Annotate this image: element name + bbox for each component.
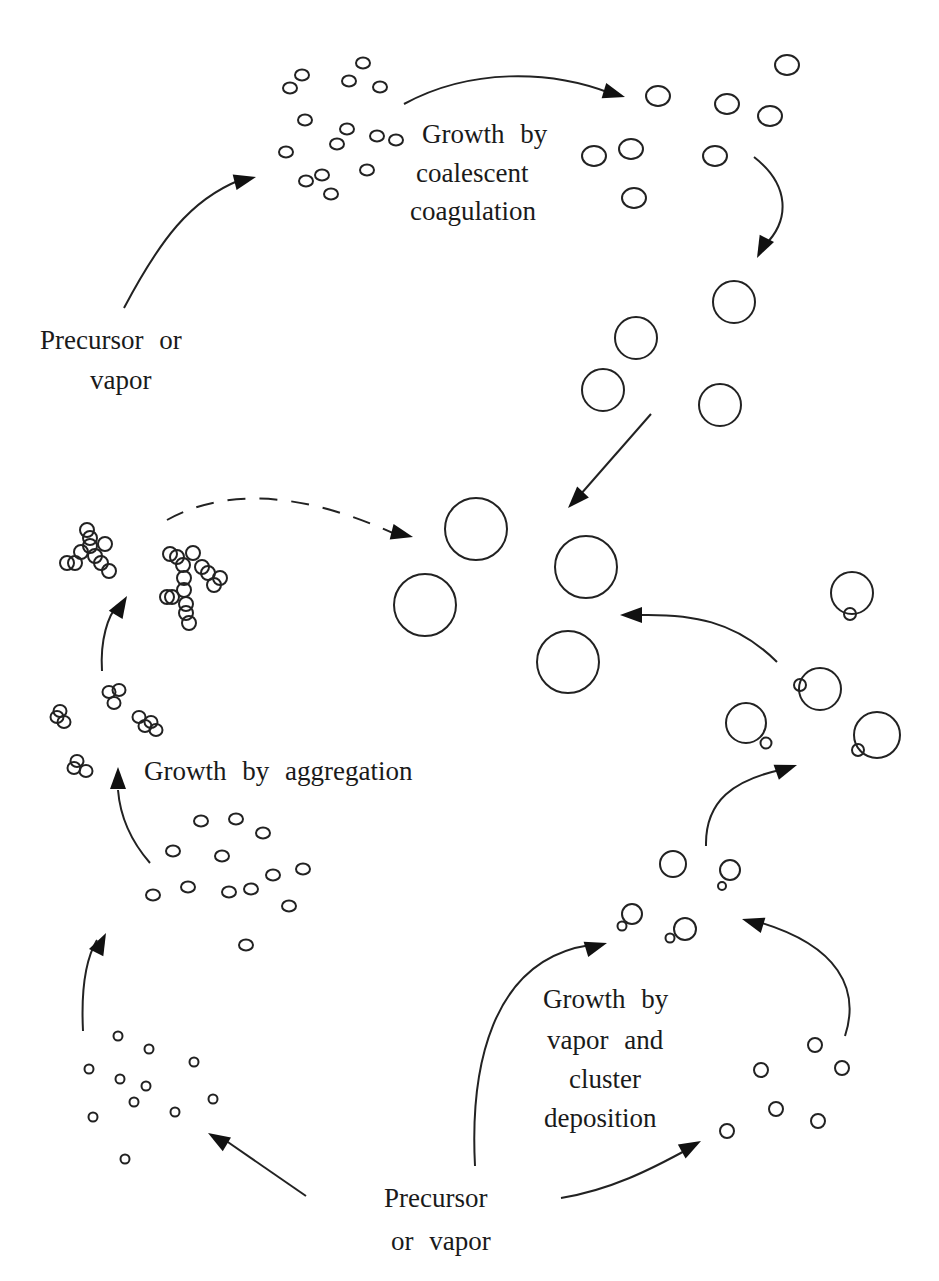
particle bbox=[646, 86, 670, 106]
primary-particle bbox=[98, 537, 112, 551]
stage-primary-particles bbox=[146, 814, 310, 951]
attached-cluster bbox=[618, 922, 627, 931]
particle bbox=[808, 1038, 822, 1052]
attached-cluster bbox=[852, 744, 864, 756]
particle bbox=[85, 1065, 94, 1074]
primary-particle bbox=[80, 765, 93, 777]
particle bbox=[373, 82, 387, 93]
particle-with-cluster bbox=[852, 712, 900, 758]
particle bbox=[758, 106, 782, 126]
stage-nuclei-bottom-left bbox=[85, 1032, 218, 1164]
primary-particle bbox=[102, 564, 116, 578]
particle bbox=[194, 816, 208, 827]
arrowhead-icon bbox=[233, 175, 256, 191]
stage-grown-with-clusters bbox=[726, 572, 900, 758]
arrow-grown-to-final bbox=[620, 607, 777, 662]
particle bbox=[720, 1124, 734, 1138]
particle bbox=[315, 170, 329, 181]
arrows-layer bbox=[83, 76, 850, 1198]
particle bbox=[171, 1108, 180, 1117]
arrow-precursor-to-nuclei-top bbox=[124, 175, 256, 308]
particle bbox=[775, 55, 799, 75]
particle bbox=[360, 165, 374, 176]
particle bbox=[622, 188, 646, 208]
stage-fractal-aggregates bbox=[60, 523, 227, 630]
arrow-precursor-to-nuclei-right bbox=[561, 1141, 701, 1198]
host-particle bbox=[720, 860, 740, 880]
particle bbox=[356, 58, 370, 69]
particle bbox=[537, 631, 599, 693]
particle bbox=[181, 882, 195, 893]
stage-nuclei-top bbox=[279, 58, 403, 200]
primary-particle bbox=[186, 546, 200, 560]
particle bbox=[239, 940, 253, 951]
label-coalescent-line2: coalescent bbox=[416, 158, 529, 188]
arrow-shaft bbox=[222, 1138, 306, 1196]
particle bbox=[145, 1045, 154, 1054]
particle bbox=[299, 176, 313, 187]
label-deposition-line4: deposition bbox=[544, 1103, 657, 1133]
stage-growing-with-clusters bbox=[618, 851, 741, 943]
label-precursor-bottom-line2: or vapor bbox=[391, 1226, 491, 1256]
particle bbox=[389, 135, 403, 146]
particle bbox=[89, 1113, 98, 1122]
arrowhead-icon bbox=[774, 765, 797, 780]
fractal-aggregate bbox=[60, 523, 116, 578]
arrow-growing-to-grown bbox=[706, 765, 797, 846]
particle bbox=[229, 814, 243, 825]
particle bbox=[713, 281, 755, 323]
arrow-shaft bbox=[755, 921, 850, 1036]
arrowhead-icon bbox=[602, 83, 625, 98]
particle bbox=[166, 846, 180, 857]
particle bbox=[715, 94, 739, 114]
primary-particle bbox=[71, 755, 84, 767]
label-aggregation: Growth by aggregation bbox=[144, 756, 413, 786]
particle-with-cluster bbox=[718, 860, 740, 890]
small-aggregate bbox=[133, 711, 163, 736]
host-particle bbox=[854, 712, 900, 758]
particle bbox=[295, 70, 309, 81]
label-precursor-top-line2: vapor bbox=[90, 365, 151, 395]
arrow-nuclei-to-coalesced bbox=[404, 76, 625, 104]
arrow-coalesced-to-larger bbox=[754, 157, 783, 258]
arrow-larger-to-final bbox=[568, 414, 651, 508]
arrowhead-icon bbox=[678, 1141, 701, 1159]
stage-nuclei-bottom-right bbox=[720, 1038, 849, 1138]
particle bbox=[342, 76, 356, 87]
particle bbox=[835, 1061, 849, 1075]
host-particle bbox=[622, 904, 642, 924]
arrow-precursor-to-nuclei-left bbox=[208, 1133, 306, 1196]
particle bbox=[394, 574, 456, 636]
particle-growth-diagram: Precursor or vapor Growth by coalescent … bbox=[0, 0, 939, 1281]
arrow-shaft bbox=[706, 770, 780, 846]
primary-particle bbox=[68, 762, 81, 774]
particle bbox=[703, 146, 727, 166]
arrow-shaft bbox=[102, 605, 118, 671]
particle-with-cluster bbox=[831, 572, 873, 620]
particle bbox=[121, 1155, 130, 1164]
host-particle bbox=[726, 703, 766, 743]
particle bbox=[754, 1063, 768, 1077]
particle bbox=[282, 901, 296, 912]
attached-cluster bbox=[718, 882, 726, 890]
particle bbox=[330, 139, 344, 150]
particle bbox=[769, 1102, 783, 1116]
host-particle bbox=[674, 918, 696, 940]
arrow-shaft bbox=[83, 940, 97, 1031]
primary-particle bbox=[179, 606, 193, 620]
label-deposition-line3: cluster bbox=[569, 1064, 641, 1094]
primary-particle bbox=[80, 523, 94, 537]
arrow-small-agg-to-fractal bbox=[102, 596, 127, 671]
particle bbox=[215, 851, 229, 862]
arrowhead-icon bbox=[110, 767, 126, 789]
arrowhead-icon bbox=[584, 942, 607, 957]
label-deposition-line2: vapor and bbox=[547, 1025, 664, 1055]
particle bbox=[146, 890, 160, 901]
attached-cluster bbox=[761, 738, 772, 749]
arrowhead-icon bbox=[620, 607, 642, 623]
particle bbox=[114, 1032, 123, 1041]
primary-particle bbox=[182, 616, 196, 630]
particle bbox=[370, 131, 384, 142]
arrowhead-icon bbox=[390, 524, 413, 540]
arrow-shaft bbox=[754, 157, 783, 245]
